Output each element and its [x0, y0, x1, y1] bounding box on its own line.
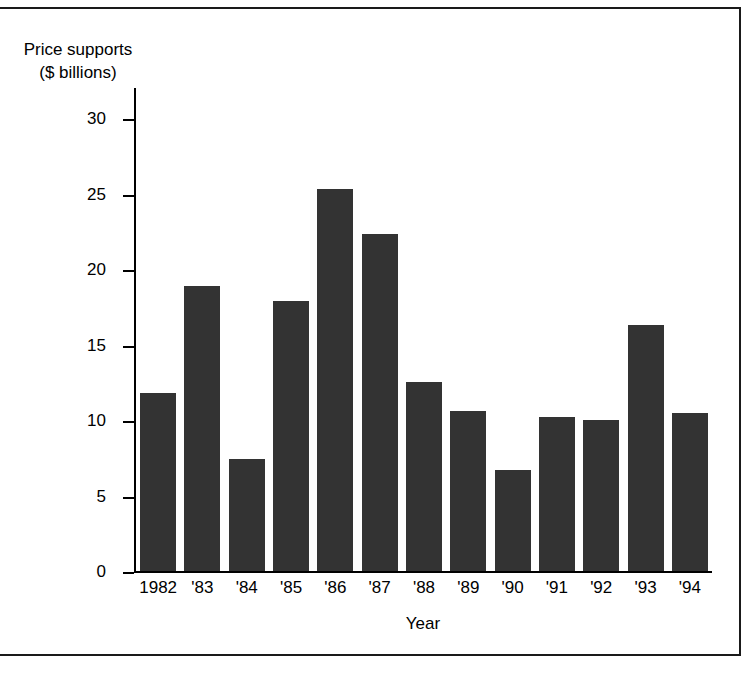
y-axis-tick-label: 5 [97, 487, 106, 507]
x-axis-line [134, 571, 712, 573]
x-axis-tick-label: '89 [446, 578, 490, 598]
x-axis-tick-label: '85 [269, 578, 313, 598]
bar [495, 470, 531, 571]
y-axis-title: Price supports ($ billions) [8, 38, 148, 84]
bar [140, 393, 176, 571]
y-axis-tick: 5 [123, 497, 134, 499]
bottom-divider-rule [0, 654, 741, 656]
x-axis-tick-label: '87 [358, 578, 402, 598]
y-axis-tick-label: 25 [87, 185, 106, 205]
x-axis-tick-labels: 1982'83'84'85'86'87'88'89'90'91'92'93'94 [136, 578, 712, 608]
y-axis-tick: 20 [123, 270, 134, 272]
y-axis-tick: 30 [123, 119, 134, 121]
x-axis-tick-label: '91 [535, 578, 579, 598]
bar [539, 417, 575, 571]
y-axis-tick: 0 [123, 572, 134, 574]
y-axis-tick: 15 [123, 346, 134, 348]
y-axis-tick-label: 0 [97, 562, 106, 582]
x-axis-tick-label: '93 [623, 578, 667, 598]
bar [229, 459, 265, 571]
x-axis-tick-label: '94 [668, 578, 712, 598]
bar [317, 189, 353, 571]
x-axis-tick-label: 1982 [136, 578, 180, 598]
bar [184, 286, 220, 571]
x-axis-tick-label: '86 [313, 578, 357, 598]
x-axis-tick-label: '88 [402, 578, 446, 598]
x-axis-tick-label: '84 [225, 578, 269, 598]
x-axis-tick-label: '83 [180, 578, 224, 598]
y-axis-tick-label: 30 [87, 109, 106, 129]
bar [628, 325, 664, 571]
bar [273, 301, 309, 571]
bar-series [136, 88, 712, 571]
right-border-rule [739, 7, 741, 656]
bar [406, 382, 442, 571]
bar [583, 420, 619, 571]
y-axis-tick: 10 [123, 421, 134, 423]
y-axis-tick-label: 15 [87, 336, 106, 356]
x-axis-tick-label: '90 [490, 578, 534, 598]
x-axis-title: Year [134, 614, 712, 634]
bar [672, 413, 708, 571]
bar [362, 234, 398, 571]
top-divider-rule [0, 7, 741, 9]
y-axis-tick-label: 10 [87, 411, 106, 431]
bar [450, 411, 486, 571]
y-axis-tick-label: 20 [87, 260, 106, 280]
plot-area: 051015202530 [134, 88, 712, 573]
x-axis-tick-label: '92 [579, 578, 623, 598]
y-axis-tick: 25 [123, 195, 134, 197]
